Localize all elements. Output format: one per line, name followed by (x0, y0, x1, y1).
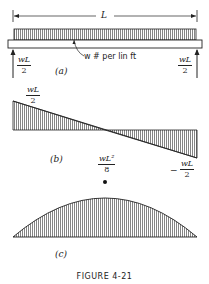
shear-diagram (13, 101, 197, 158)
load-label: w # per lin ft (84, 53, 136, 61)
right-reaction-arrow (195, 49, 200, 78)
right-reaction-label: wL 2 (178, 56, 192, 75)
distributed-load (14, 29, 196, 40)
moment-diagram (13, 180, 197, 237)
part-a-label: (a) (55, 67, 67, 76)
beam (8, 40, 202, 48)
beam-diagram (0, 0, 209, 284)
moment-peak-label: wL² 8 (98, 155, 115, 174)
shear-right-sign: − (170, 166, 178, 175)
figure-caption: FIGURE 4-21 (0, 272, 209, 281)
shear-right-label: wL 2 (180, 160, 194, 179)
left-reaction-label: wL 2 (17, 56, 31, 75)
peak-point (103, 180, 107, 184)
part-b-label: (b) (50, 155, 63, 164)
span-label: L (101, 11, 107, 20)
shear-left-label: wL 2 (26, 86, 40, 105)
part-c-label: (c) (55, 250, 67, 259)
left-reaction-arrow (11, 49, 16, 78)
